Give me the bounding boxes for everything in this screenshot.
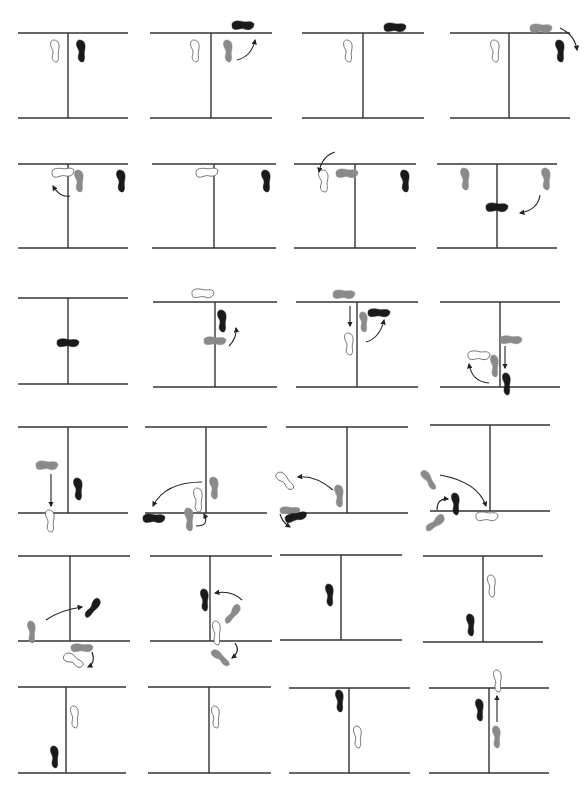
outline-footprint-icon [62, 651, 85, 671]
gray-footprint-icon [36, 461, 58, 470]
black-footprint-icon [555, 40, 564, 62]
footwork-diagram [0, 0, 587, 787]
gray-footprint-icon [74, 170, 83, 192]
outline-footprint-icon [192, 289, 214, 298]
gray-footprint-icon [500, 336, 522, 344]
black-footprint-icon [475, 699, 483, 721]
step-panel-19 [280, 555, 402, 640]
step-panel-21 [18, 687, 126, 773]
outline-footprint-icon [193, 488, 202, 512]
gray-footprint-icon [27, 621, 35, 643]
black-footprint-icon [116, 170, 125, 192]
step-panel-12 [440, 302, 560, 395]
gray-footprint-icon [184, 508, 193, 531]
motion-arrow-icon [298, 477, 333, 490]
motion-arrow-icon [215, 592, 242, 600]
motion-arrow-icon [440, 475, 486, 506]
motion-arrow-icon [46, 607, 82, 620]
gray-footprint-icon [209, 477, 218, 499]
motion-arrow-icon [520, 195, 540, 213]
gray-footprint-icon [492, 726, 500, 748]
outline-footprint-icon [196, 167, 219, 178]
gray-footprint-icon [71, 644, 93, 652]
black-footprint-icon [384, 23, 406, 32]
outline-footprint-icon [319, 170, 329, 192]
outline-footprint-icon [274, 470, 295, 492]
step-panel-3 [302, 23, 424, 118]
outline-footprint-icon [487, 575, 495, 597]
outline-footprint-icon [476, 512, 498, 521]
outline-footprint-icon [353, 726, 361, 748]
gray-footprint-icon [280, 507, 300, 514]
motion-arrow-icon [229, 328, 236, 346]
outline-footprint-icon [52, 167, 75, 178]
step-panel-2 [150, 21, 272, 118]
gray-footprint-icon [460, 168, 469, 190]
step-panel-6 [152, 164, 276, 248]
gray-footprint-icon [210, 648, 231, 669]
black-footprint-icon [200, 589, 208, 611]
gray-footprint-icon [223, 40, 232, 62]
step-panel-15 [274, 427, 408, 527]
step-panel-14 [143, 427, 267, 531]
gray-footprint-icon [423, 513, 446, 533]
motion-arrow-icon [319, 152, 335, 172]
outline-footprint-icon [211, 706, 219, 728]
outline-footprint-icon [344, 333, 353, 355]
step-panel-24 [429, 670, 549, 773]
step-panel-18 [150, 556, 272, 669]
step-panel-16 [419, 425, 550, 533]
black-footprint-icon [335, 690, 343, 712]
motion-arrow-icon [232, 643, 237, 658]
gray-footprint-icon [530, 24, 552, 33]
black-footprint-icon [368, 309, 390, 317]
outline-footprint-icon [343, 40, 352, 62]
panel-grid [18, 21, 577, 773]
motion-arrow-icon [88, 652, 93, 667]
black-footprint-icon [502, 373, 510, 395]
black-footprint-icon [82, 597, 102, 619]
step-panel-20 [423, 556, 543, 642]
gray-footprint-icon [334, 485, 343, 507]
step-panel-13 [18, 427, 128, 532]
black-footprint-icon [76, 40, 85, 62]
outline-footprint-icon [70, 706, 78, 728]
black-footprint-icon [486, 203, 508, 212]
gray-footprint-icon [336, 169, 358, 178]
step-panel-1 [18, 33, 128, 118]
outline-footprint-icon [45, 510, 54, 532]
gray-footprint-icon [359, 312, 367, 332]
black-footprint-icon [232, 21, 254, 30]
step-panel-17 [18, 556, 130, 671]
gray-footprint-icon [419, 469, 437, 492]
gray-footprint-icon [333, 290, 355, 299]
step-panel-5 [18, 164, 128, 248]
step-panel-22 [148, 687, 271, 773]
black-footprint-icon [325, 584, 333, 606]
motion-arrow-icon [196, 514, 206, 526]
motion-arrow-icon [469, 364, 489, 383]
black-footprint-icon [57, 339, 79, 347]
step-panel-7 [294, 152, 416, 248]
outline-footprint-icon [468, 351, 490, 360]
black-footprint-icon [50, 746, 58, 768]
motion-arrow-icon [237, 40, 255, 60]
black-footprint-icon [400, 170, 409, 192]
outline-footprint-icon [490, 40, 499, 62]
step-panel-23 [289, 688, 410, 773]
step-panel-4 [450, 24, 577, 118]
outline-footprint-icon [50, 40, 59, 62]
black-footprint-icon [143, 514, 165, 523]
motion-arrow-icon [437, 499, 448, 510]
gray-footprint-icon [490, 355, 498, 377]
step-panel-9 [18, 298, 128, 384]
motion-arrow-icon [366, 320, 384, 342]
step-panel-10 [153, 289, 277, 387]
gray-footprint-icon [222, 603, 242, 625]
step-panel-8 [437, 164, 557, 248]
step-panel-11 [296, 290, 418, 387]
gray-footprint-icon [541, 168, 550, 190]
gray-footprint-icon [204, 337, 226, 345]
black-footprint-icon [217, 310, 226, 332]
black-footprint-icon [466, 614, 474, 636]
